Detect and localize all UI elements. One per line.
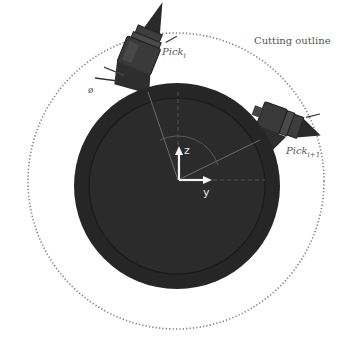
pick-i-plus-1-label: Picki+1 [285, 145, 320, 159]
cutting-diagram: z y Cutting outline Picki Picki+1 ø [0, 0, 350, 348]
drum-inner [89, 98, 265, 274]
angle-symbol-label: ø [88, 85, 94, 95]
cutting-outline-label: Cutting outline [254, 35, 331, 46]
z-axis-label: z [184, 144, 190, 157]
y-axis-label: y [203, 186, 210, 199]
pick-i-label: Picki [161, 46, 186, 60]
